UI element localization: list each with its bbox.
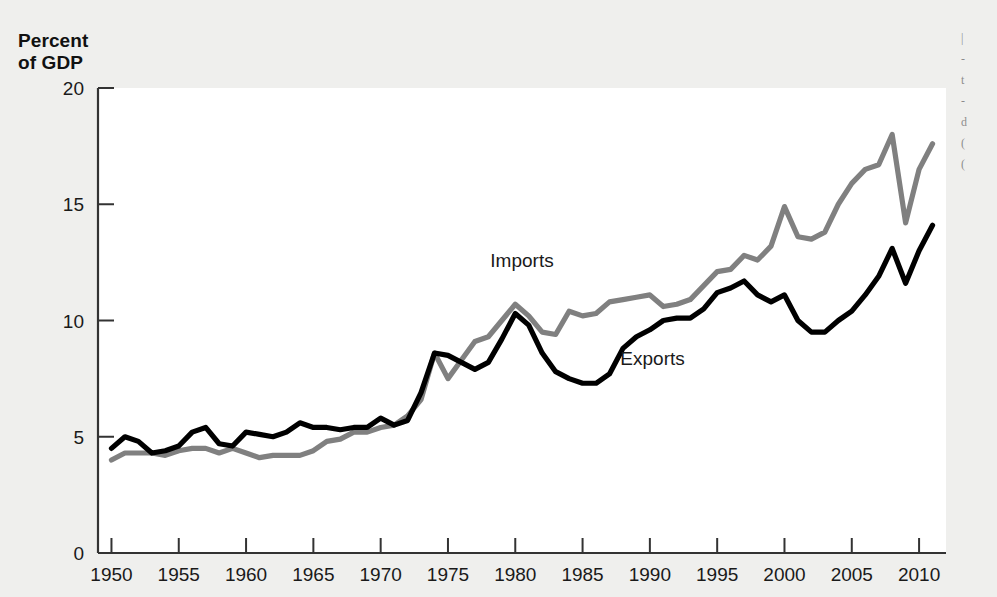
x-axis-tick-label: 1970 (360, 564, 402, 585)
x-axis-tick-label: 2010 (898, 564, 940, 585)
x-axis-tick-label: 1965 (292, 564, 334, 585)
y-axis-tick-label: 5 (73, 427, 84, 448)
x-axis-tick-label: 1975 (427, 564, 469, 585)
x-axis-tick-label: 1990 (629, 564, 671, 585)
y-axis-tick-label: 0 (73, 543, 84, 564)
page-edge-text-fragment: | - t - d ( ( (961, 28, 995, 243)
x-axis-tick-label: 2000 (763, 564, 805, 585)
x-axis-tick-label: 1980 (494, 564, 536, 585)
series-label-imports: Imports (490, 250, 553, 271)
x-axis-tick-label: 1960 (225, 564, 267, 585)
x-axis-tick-label: 1995 (696, 564, 738, 585)
x-axis-tick-label: 1985 (561, 564, 603, 585)
y-axis-tick-label: 20 (63, 78, 84, 99)
series-line-imports (111, 135, 932, 461)
x-axis-tick-label: 1950 (90, 564, 132, 585)
series-label-exports: Exports (620, 348, 684, 369)
x-axis-tick-label: 2005 (831, 564, 873, 585)
chart-figure: Percent of GDP 0510152019501955196019651… (0, 0, 997, 597)
line-chart-svg: 0510152019501955196019651970197519801985… (0, 0, 997, 597)
y-axis-tick-label: 15 (63, 194, 84, 215)
x-axis-tick-label: 1955 (158, 564, 200, 585)
series-layer (111, 135, 932, 461)
y-axis-tick-label: 10 (63, 311, 84, 332)
